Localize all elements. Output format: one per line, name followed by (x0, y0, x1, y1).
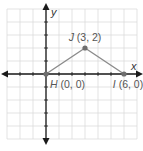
point-label-I: I (6, 0) (113, 78, 143, 90)
point-I (121, 71, 126, 76)
point-label-J: J (3, 2) (68, 31, 102, 43)
point-H (43, 71, 48, 76)
point-J (82, 45, 87, 50)
coordinate-plane-figure: x y H (0, 0)J (3, 2)I (6, 0) (0, 0, 143, 151)
y-axis-arrow-down-icon (43, 138, 50, 145)
y-axis-arrow-up-icon (43, 3, 50, 10)
y-axis-label: y (50, 6, 58, 18)
coordinate-plane: x y H (0, 0)J (3, 2)I (6, 0) (0, 0, 143, 151)
point-label-H: H (0, 0) (50, 78, 85, 90)
x-axis-arrow-right-icon (136, 71, 143, 78)
x-axis-label: x (130, 60, 137, 72)
x-axis-arrow-left-icon (1, 71, 8, 78)
